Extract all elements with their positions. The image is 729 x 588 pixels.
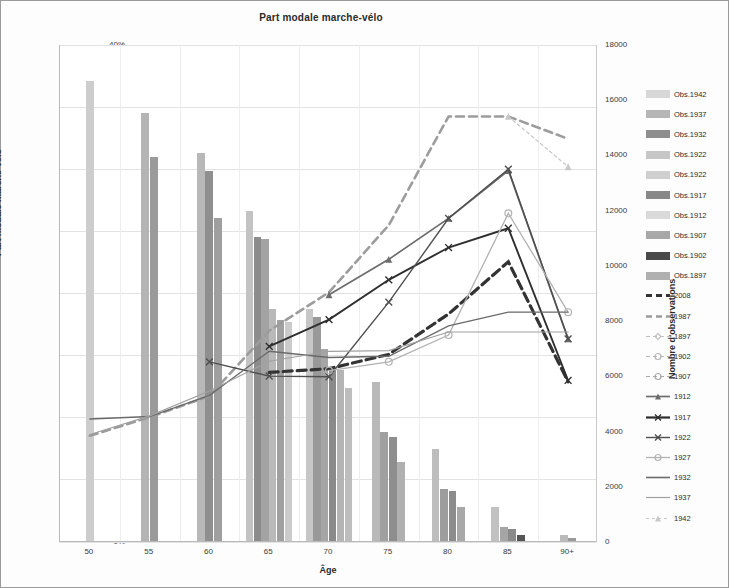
legend-item[interactable]: Obs.1922 [646,145,728,165]
legend-line-sample [646,433,670,442]
legend-item[interactable]: Obs.1902 [646,246,728,266]
secondary-y-axis-tick-label: 18000 [605,40,649,49]
legend-item[interactable]: 1907 [646,367,728,387]
chart-title: Part modale marche-vélo [1,12,641,23]
legend-swatch [646,171,670,179]
legend-item[interactable]: 1917 [646,407,728,427]
legend-item[interactable]: 1912 [646,387,728,407]
legend-item[interactable]: 1927 [646,447,728,467]
legend-item[interactable]: 1942 [646,508,728,528]
legend-item-label: Obs.1937 [674,110,707,119]
legend-item-label: Obs.1912 [674,211,707,220]
legend-item-label: 1932 [674,473,691,482]
data-point-marker-x [385,276,392,283]
secondary-y-axis-tick-label: 8000 [605,316,649,325]
legend-item[interactable]: Obs.1932 [646,124,728,144]
secondary-y-axis-tick-label: 6000 [605,371,649,380]
legend-line-sample [646,453,670,462]
legend-swatch [646,90,670,98]
line-series [508,116,568,166]
line-series [269,228,568,380]
x-axis-title: Âge [59,565,597,575]
secondary-y-axis-tick-label: 12000 [605,206,649,215]
legend-item[interactable]: Obs.1942 [646,84,728,104]
legend-line-sample [646,372,670,381]
legend-line-sample [646,291,670,300]
legend-swatch [646,130,670,138]
legend-swatch [646,191,670,199]
legend-line-sample [646,514,670,523]
legend-line-sample [646,473,670,482]
x-axis-tick-label: 80 [423,547,473,556]
x-axis-tick-label: 50 [64,547,114,556]
line-series [90,116,568,435]
y-axis-title: Part modale marche-vélo [0,149,3,256]
legend-item-label: Obs.1942 [674,90,707,99]
legend-item-label: 1942 [674,514,691,523]
legend-item[interactable]: Obs.1897 [646,266,728,286]
legend-item-label: 1922 [674,433,691,442]
chart-legend: Obs.1942Obs.1937Obs.1932Obs.1922Obs.1922… [646,84,728,528]
legend-item[interactable]: 2008 [646,286,728,306]
legend-line-sample [646,312,670,321]
secondary-y-axis-tick-label: 4000 [605,427,649,436]
legend-item-label: 1917 [674,413,691,422]
x-axis-tick-label: 60 [183,547,233,556]
secondary-y-axis-tick-label: 10000 [605,261,649,270]
legend-item[interactable]: 1897 [646,326,728,346]
data-point-marker-x [266,343,273,350]
x-axis-tick-label: 90+ [542,547,592,556]
x-axis-tick-label: 85 [482,547,532,556]
legend-line-sample [646,332,670,341]
legend-item-label: Obs.1922 [674,170,707,179]
legend-item[interactable]: Obs.1912 [646,205,728,225]
legend-item[interactable]: Obs.1917 [646,185,728,205]
legend-item-label: 1927 [674,453,691,462]
legend-swatch [646,231,670,239]
legend-item-label: 2008 [674,291,691,300]
legend-item[interactable]: Obs.1907 [646,225,728,245]
legend-swatch [646,211,670,219]
legend-item-label: Obs.1922 [674,150,707,159]
legend-item-label: 1897 [674,332,691,341]
legend-item[interactable]: 1902 [646,346,728,366]
secondary-y-axis-tick-label: 0 [605,537,649,546]
legend-swatch [646,151,670,159]
chart-frame: Part modale marche-vélo Part modale marc… [0,0,729,588]
line-layer [60,45,598,542]
legend-swatch [646,252,670,260]
legend-item-label: 1902 [674,352,691,361]
legend-item-label: Obs.1902 [674,251,707,260]
legend-item-label: 1912 [674,392,691,401]
legend-line-sample [646,352,670,361]
legend-item-label: 1987 [674,312,691,321]
legend-item-label: Obs.1917 [674,191,707,200]
data-point-marker-x [326,316,333,323]
legend-item-label: 1907 [674,372,691,381]
legend-line-sample [646,392,670,401]
data-point-marker-x [385,299,392,306]
legend-item[interactable]: Obs.1922 [646,165,728,185]
x-axis-tick-label: 75 [363,547,413,556]
line-series [329,170,568,338]
x-axis-tick-label: 70 [303,547,353,556]
legend-item[interactable]: Obs.1937 [646,104,728,124]
legend-item[interactable]: 1932 [646,468,728,488]
legend-item[interactable]: 1987 [646,306,728,326]
legend-swatch [646,110,670,118]
x-axis-tick-label: 55 [124,547,174,556]
line-series [90,312,568,419]
legend-item-label: Obs.1897 [674,271,707,280]
legend-item-label: Obs.1932 [674,130,707,139]
legend-item[interactable]: 1937 [646,488,728,508]
secondary-y-axis-tick-label: 14000 [605,150,649,159]
secondary-y-axis-tick-label: 16000 [605,95,649,104]
line-series [90,332,568,435]
line-series [269,262,568,382]
legend-item[interactable]: 1922 [646,427,728,447]
legend-item-label: Obs.1907 [674,231,707,240]
secondary-y-axis-tick-label: 2000 [605,482,649,491]
legend-swatch [646,272,670,280]
plot-area [59,45,597,542]
legend-line-sample [646,493,670,502]
